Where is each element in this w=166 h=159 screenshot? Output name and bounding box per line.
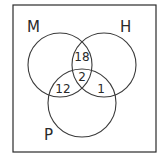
venn-diagram: M H P 18 2 12 1 [0,0,166,159]
set-label-h: H [120,18,131,36]
region-m-and-p: 12 [55,82,70,96]
region-h-and-p: 1 [97,82,105,96]
set-label-m: M [27,18,40,36]
region-m-h-p: 2 [78,70,86,84]
set-label-p: P [44,126,53,144]
region-m-and-h: 18 [74,50,89,64]
